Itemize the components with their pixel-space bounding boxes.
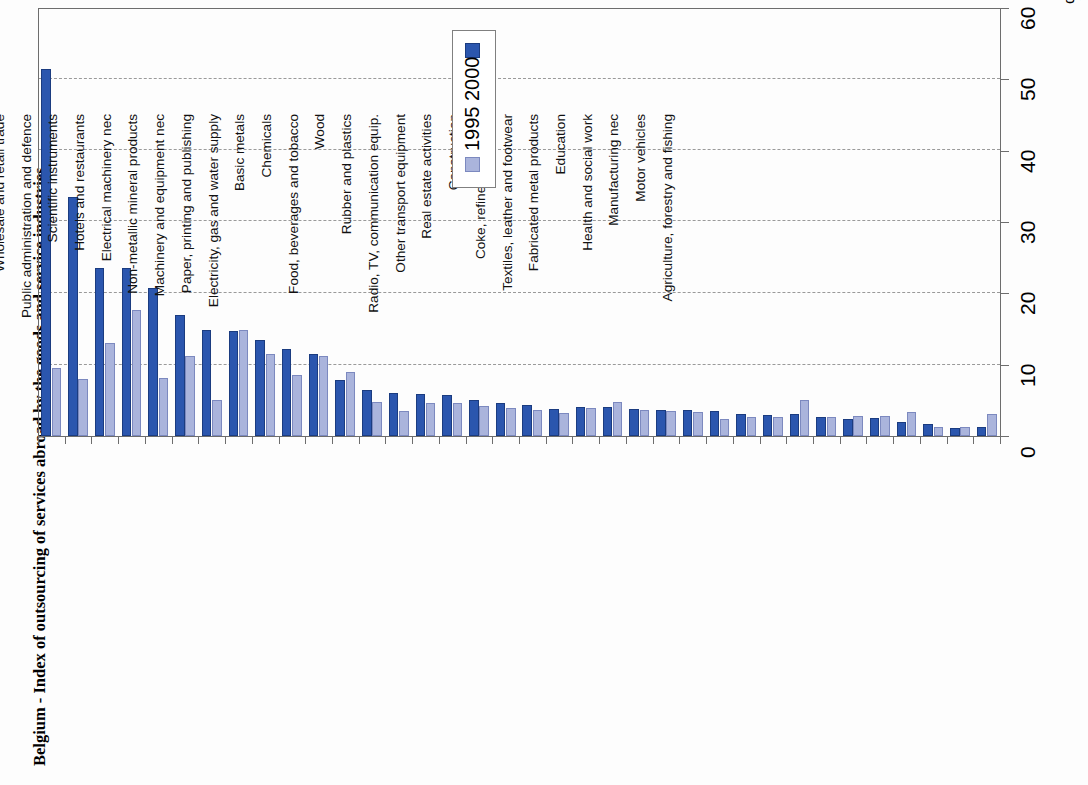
category-label: Textiles, leather and footwear [500,114,515,444]
value-tick [1000,222,1009,223]
bar-2000 [736,414,745,436]
value-tick-label: 0 [1016,414,1040,458]
value-tick-label: 60 [1016,0,1040,30]
bar-1995 [934,427,943,436]
category-tick [492,436,493,444]
bar-2000 [897,422,906,436]
bar-group [866,8,893,436]
bar-1995 [773,417,782,436]
category-label: Machinery and equipment nec [152,114,167,444]
bar-group [947,8,974,436]
category-tick [305,436,306,444]
legend-swatch-1995-icon [465,157,480,172]
percent-axis-label: % [1062,0,1085,4]
bar-2000 [683,410,692,436]
bar-group [973,8,1000,436]
category-label: Wood [312,114,327,444]
bar-2000 [790,414,799,436]
category-tick [947,436,948,444]
category-tick [679,436,680,444]
bar-2000 [763,415,772,436]
value-tick [1000,365,1009,366]
category-tick [252,436,253,444]
chart-page: Belgium - Index of outsourcing of servic… [0,0,1088,785]
category-label: Chemicals [259,114,274,444]
category-tick [172,436,173,444]
category-label: Electricity, gas and water supply [206,114,221,444]
category-label: Paper, printing and publishing [179,114,194,444]
category-tick [813,436,814,444]
bar-group [840,8,867,436]
category-tick [91,436,92,444]
category-tick [412,436,413,444]
category-tick [893,436,894,444]
category-label: Fabricated metal products [526,114,541,444]
category-label: Other transport equipment [393,114,408,444]
value-tick-label: 50 [1016,57,1040,101]
category-tick [198,436,199,444]
legend-label-2000: 2000 [461,57,484,102]
category-label: Education [553,114,568,444]
bar-1995 [960,427,969,436]
bar-2000 [816,417,825,436]
category-tick [65,436,66,444]
value-tick-label: 10 [1016,343,1040,387]
category-label: Basic metals [232,114,247,444]
category-label: Non-metallic mineral products [125,114,140,444]
value-tick-label: 40 [1016,129,1040,173]
category-label: Real estate activities [419,114,434,444]
bar-group [679,8,706,436]
category-tick [385,436,386,444]
category-label: Food, beverages and tobacco [286,114,301,444]
category-label: Manufacturing nec [606,114,621,444]
value-tick [1000,151,1009,152]
bar-group [760,8,787,436]
bar-group [733,8,760,436]
category-tick [279,436,280,444]
category-tick [973,436,974,444]
category-label: Wholesale and retail trade [0,114,7,444]
category-tick [866,436,867,444]
bar-2000 [923,424,932,436]
bar-group [920,8,947,436]
category-tick [38,436,39,444]
category-tick [332,436,333,444]
category-tick [920,436,921,444]
bar-1995 [720,419,729,436]
bar-1995 [987,414,996,436]
bar-1995 [827,417,836,436]
bar-1995 [693,412,702,436]
bar-1995 [907,412,916,436]
category-tick [519,436,520,444]
category-label: Scientific instruments [45,114,60,444]
category-labels: Office machinery and computersResearch a… [0,444,1088,785]
bar-group [893,8,920,436]
bar-2000 [710,411,719,436]
category-tick [145,436,146,444]
value-tick-label: 20 [1016,271,1040,315]
category-tick [359,436,360,444]
bar-2000 [870,418,879,436]
category-tick [760,436,761,444]
category-tick [572,436,573,444]
category-tick [706,436,707,444]
category-label: Electrical machinery nec [99,114,114,444]
bar-2000 [950,428,959,436]
category-tick [546,436,547,444]
category-tick [225,436,226,444]
category-label: Hotels and restaurants [72,114,87,444]
legend: 2000 1995 [452,30,496,188]
category-tick [626,436,627,444]
category-label: Agriculture, forestry and fishing [660,114,675,444]
category-tick [786,436,787,444]
category-tick [1000,436,1001,444]
category-label: Radio, TV, communication equip. [366,114,381,444]
value-tick [1000,436,1009,437]
category-label: Rubber and plastics [339,114,354,444]
bar-1995 [747,417,756,436]
category-tick [653,436,654,444]
category-tick [118,436,119,444]
value-tick [1000,8,1009,9]
bar-group [786,8,813,436]
bar-group [706,8,733,436]
